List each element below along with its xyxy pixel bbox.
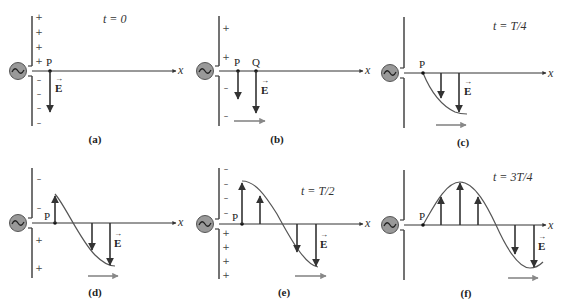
field-label: E→ (55, 82, 62, 94)
generator-icon (382, 217, 399, 234)
charge: – (34, 119, 44, 128)
point-label: P (419, 58, 425, 70)
axis-label: x (365, 63, 370, 78)
panel-caption: (f) (446, 287, 486, 299)
time-label: t = 0 (103, 12, 126, 27)
charge: + (221, 271, 231, 280)
field-label: E→ (320, 238, 327, 250)
generator-icon (10, 215, 27, 232)
time-label: t = 3T/4 (493, 170, 532, 185)
wave-curve (55, 194, 115, 266)
point-label: P (234, 56, 240, 68)
axis-label: x (178, 63, 183, 78)
generator-icon (382, 65, 399, 82)
time-label: t = T/4 (493, 19, 526, 34)
charge: + (221, 229, 231, 238)
vector-arrow-icon: → (261, 76, 269, 85)
charge: + (34, 57, 44, 66)
point-label: P (232, 211, 238, 223)
charge: – (34, 175, 44, 184)
charge: + (34, 13, 44, 22)
panel-caption: (e) (264, 286, 304, 298)
field-label: E→ (464, 85, 471, 97)
charge: + (221, 24, 231, 33)
vector-arrow-icon: → (114, 229, 122, 238)
point-p (421, 223, 425, 227)
axis-label: x (548, 66, 553, 81)
charge: – (221, 165, 231, 174)
point-label: Q (252, 56, 260, 68)
vector-arrow-icon: → (320, 230, 328, 239)
axis-label: x (548, 218, 553, 233)
generator-icon (197, 216, 214, 233)
point-label: P (44, 210, 50, 222)
charge: – (221, 180, 231, 189)
vector-arrow-icon: → (538, 232, 546, 241)
charge: + (34, 43, 44, 52)
axis-label: x (365, 216, 370, 231)
field-label: E→ (114, 237, 121, 249)
charge: – (221, 112, 231, 121)
panel-f (382, 170, 547, 280)
generator-icon (10, 63, 27, 80)
point-label: P (419, 210, 425, 222)
charge: + (221, 53, 231, 62)
em-wave-figure: t = 0 P x E→ + + + + – – – – (a) P Q x E… (0, 0, 571, 306)
charge: + (221, 257, 231, 266)
axis-label: x (178, 215, 183, 230)
charge: – (34, 76, 44, 85)
panel-caption: (d) (75, 286, 115, 298)
panel-caption: (a) (75, 133, 115, 145)
vector-arrow-icon: → (464, 77, 472, 86)
field-label: E→ (538, 240, 545, 252)
charge: – (221, 84, 231, 93)
charge: – (34, 204, 44, 213)
charge: – (34, 104, 44, 113)
panel-d (10, 168, 177, 278)
panel-caption: (b) (257, 133, 297, 145)
charge: – (221, 209, 231, 218)
wave-curve (423, 73, 467, 114)
vector-arrow-icon: → (55, 74, 63, 83)
generator-icon (197, 63, 214, 80)
charge: + (34, 236, 44, 245)
panel-caption: (c) (443, 136, 483, 148)
charge: + (221, 243, 231, 252)
charge: + (34, 28, 44, 37)
charge: + (34, 264, 44, 273)
field-label: E→ (261, 84, 268, 96)
figure-canvas (0, 0, 571, 306)
time-label: t = T/2 (301, 184, 334, 199)
charge: – (221, 194, 231, 203)
point-label: P (46, 56, 52, 68)
charge: – (34, 90, 44, 99)
point-p (421, 71, 425, 75)
